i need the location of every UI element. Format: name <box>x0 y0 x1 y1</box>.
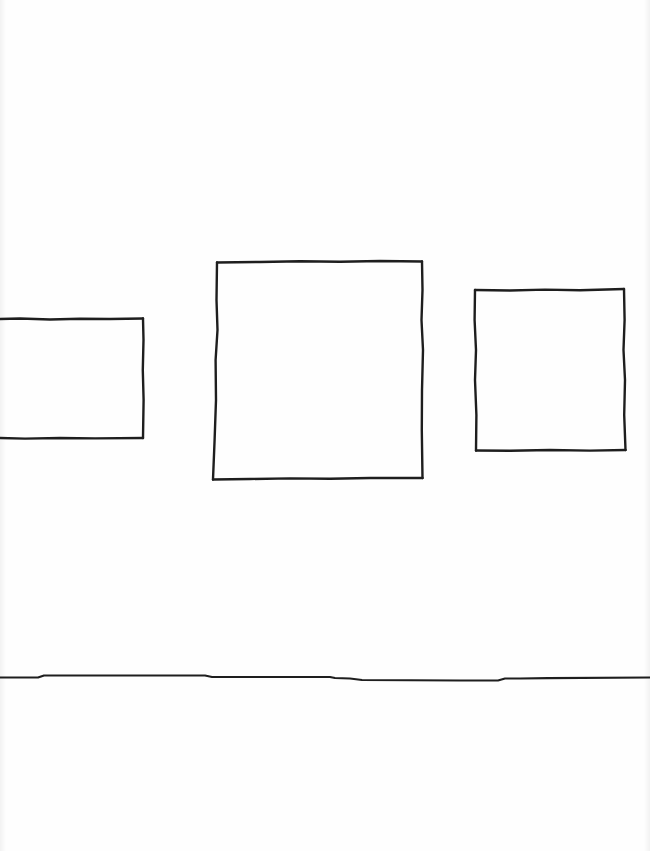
center-frame <box>213 261 423 480</box>
right-frame <box>475 289 626 451</box>
canvas <box>0 0 650 851</box>
left-frame <box>0 319 144 439</box>
sketch-drawing <box>0 0 650 851</box>
floor-line <box>0 676 650 681</box>
